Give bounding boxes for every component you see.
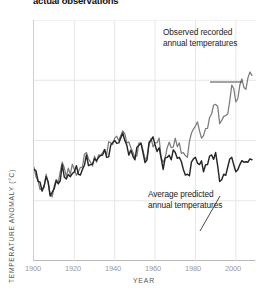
x-tick-label: 1920 (56, 264, 90, 273)
x-tick-label: 1960 (136, 264, 170, 273)
y-axis-label: TEMPERATURE ANOMALY (°C) (8, 153, 15, 283)
x-tick-label: 1980 (176, 264, 210, 273)
x-tick-label: 1900 (16, 264, 50, 273)
x-tick-label: 2000 (216, 264, 250, 273)
x-axis-label: YEAR (33, 277, 255, 284)
x-tick-label: 1940 (96, 264, 130, 273)
plot-area (33, 20, 255, 261)
chart-title: actual observations (33, 0, 233, 6)
annotation-predicted: Average predicted annual temperatures (148, 189, 230, 211)
chart-figure: actual observations 1.0 0.5 0.0 -0.5 -1.… (0, 0, 273, 291)
annotation-observed: Observed recorded annual temperatures (163, 27, 239, 49)
chart-canvas (34, 20, 256, 261)
